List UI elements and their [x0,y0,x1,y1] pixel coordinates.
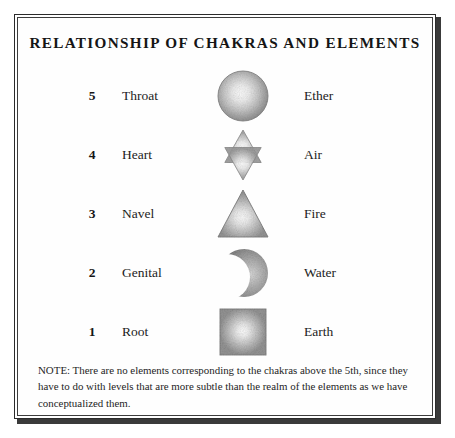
chakra-number: 4 [82,125,102,184]
page-title: RELATIONSHIP OF CHAKRAS AND ELEMENTS [18,34,432,52]
table-row: 3 Navel [18,184,432,243]
square-icon [219,308,267,356]
chakra-name: Heart [122,125,152,184]
chakra-symbol-cell [206,66,280,125]
chakra-number: 5 [82,66,102,125]
chakra-name: Root [122,302,148,361]
element-name: Water [304,243,336,302]
element-name: Earth [304,302,333,361]
plate-inner-border: RELATIONSHIP OF CHAKRAS AND ELEMENTS 5 T… [17,17,433,416]
element-name: Ether [304,66,333,125]
upward-triangle-icon [216,189,270,239]
chakra-number: 2 [82,243,102,302]
table-row: 1 Root [18,302,432,361]
chakra-symbol-cell [206,302,280,361]
circle-sphere-icon [217,70,269,122]
table-row: 2 Genital [18,243,432,302]
chakra-name: Genital [122,243,162,302]
plate-outer-border: RELATIONSHIP OF CHAKRAS AND ELEMENTS 5 T… [14,14,436,419]
crescent-moon-icon [218,246,268,300]
chakra-element-plate: RELATIONSHIP OF CHAKRAS AND ELEMENTS 5 T… [14,14,441,424]
hexagram-star-icon [215,128,271,182]
element-name: Fire [304,184,326,243]
element-name: Air [304,125,322,184]
footnote-text: NOTE: There are no elements correspondin… [38,362,414,411]
table-row: 5 Throat [18,66,432,125]
chakra-number: 3 [82,184,102,243]
chakra-symbol-cell [206,243,280,302]
table-row: 4 Heart [18,125,432,184]
chakra-name: Throat [122,66,158,125]
chakra-table: 5 Throat [18,66,432,361]
chakra-symbol-cell [206,184,280,243]
chakra-name: Navel [122,184,154,243]
chakra-number: 1 [82,302,102,361]
chakra-symbol-cell [206,125,280,184]
